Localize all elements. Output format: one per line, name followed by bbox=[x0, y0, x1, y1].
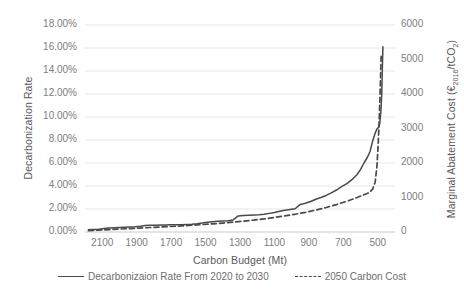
y-axis-right-title: Marginal Abatement Cost (€2016/tCO2) bbox=[445, 34, 459, 224]
y-axis-right-tick: 4000 bbox=[401, 87, 441, 98]
legend-item[interactable]: Decarbonizaion Rate From 2020 to 2030 bbox=[58, 271, 269, 282]
y-axis-left-tick: 2.00% bbox=[31, 202, 77, 213]
x-axis-title: Carbon Budget (Mt) bbox=[85, 254, 395, 266]
y-axis-right-tick: 0 bbox=[401, 225, 441, 236]
y-axis-right-tick: 1000 bbox=[401, 191, 441, 202]
series-line-0 bbox=[88, 47, 383, 230]
x-axis-tick: 500 bbox=[358, 237, 398, 248]
y-axis-left-tick: 12.00% bbox=[31, 87, 77, 98]
y-right-title-suffix: ) bbox=[445, 40, 457, 44]
y-axis-right-tick: 6000 bbox=[401, 18, 441, 29]
legend-label: Decarbonizaion Rate From 2020 to 2030 bbox=[88, 271, 269, 282]
series-line-1 bbox=[88, 54, 381, 230]
y-axis-left-tick: 16.00% bbox=[31, 41, 77, 52]
y-axis-left-tick: 4.00% bbox=[31, 179, 77, 190]
series-layer bbox=[88, 47, 383, 231]
legend-label: 2050 Carbon Cost bbox=[325, 271, 406, 282]
legend-item[interactable]: 2050 Carbon Cost bbox=[295, 271, 406, 282]
y-right-title-prefix: Marginal Abatement Cost (€ bbox=[445, 85, 457, 218]
y-axis-left-tick: 10.00% bbox=[31, 110, 77, 121]
chart-legend: Decarbonizaion Rate From 2020 to 2030205… bbox=[0, 271, 464, 282]
y-axis-left-tick: 8.00% bbox=[31, 133, 77, 144]
legend-swatch-solid bbox=[58, 276, 84, 277]
y-axis-left-tick: 18.00% bbox=[31, 18, 77, 29]
y-axis-right-tick: 5000 bbox=[401, 53, 441, 64]
y-axis-left-tick: 6.00% bbox=[31, 156, 77, 167]
y-axis-right-tick: 2000 bbox=[401, 156, 441, 167]
y-right-title-mid: /tCO bbox=[445, 47, 457, 69]
y-axis-left-tick: 0.00% bbox=[31, 225, 77, 236]
y-axis-left-tick: 14.00% bbox=[31, 64, 77, 75]
legend-swatch-dashed bbox=[295, 276, 321, 277]
y-right-title-sub-year: 2016 bbox=[452, 69, 459, 85]
y-right-title-sub-two: 2 bbox=[452, 43, 459, 47]
y-axis-right-tick: 3000 bbox=[401, 122, 441, 133]
chart-container: Decarbonization Rate Marginal Abatement … bbox=[0, 0, 464, 299]
